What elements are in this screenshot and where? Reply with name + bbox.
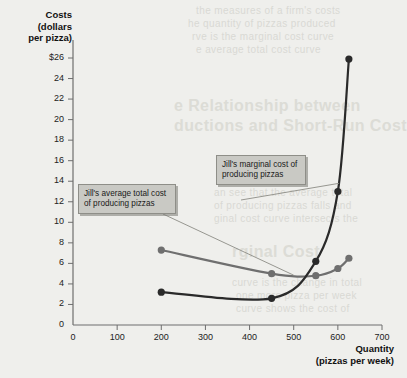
y-tick-label: 0 <box>26 319 64 329</box>
data-point-atc <box>268 270 275 277</box>
y-tick-label: 22 <box>26 93 64 103</box>
y-tick-label: 20 <box>26 114 64 124</box>
y-tick-label: 2 <box>26 298 64 308</box>
data-point-atc <box>312 272 319 279</box>
y-tick-label: 14 <box>26 175 64 185</box>
y-axis-title-sub-1: (dollars <box>8 21 72 33</box>
x-axis-title-main: Quantity <box>262 343 394 355</box>
data-point-mc <box>345 55 352 62</box>
y-axis-title-sub-2: per pizza) <box>8 32 72 44</box>
x-tick-label: 100 <box>102 332 132 342</box>
x-axis-ticks <box>117 325 382 330</box>
x-tick-label: 300 <box>190 332 220 342</box>
x-tick-label: 500 <box>279 332 309 342</box>
y-tick-label: 12 <box>26 196 64 206</box>
y-tick-label: 18 <box>26 134 64 144</box>
x-tick-label: 400 <box>235 332 265 342</box>
y-tick-label: 6 <box>26 257 64 267</box>
x-tick-label: 200 <box>146 332 176 342</box>
y-tick-label: 4 <box>26 278 64 288</box>
y-axis-title: Costs (dollars per pizza) <box>8 9 72 44</box>
x-tick-label: 700 <box>367 332 397 342</box>
annotation-callout-marginal-cost: Jill's marginal cost of producing pizzas <box>216 155 306 185</box>
x-tick-label: 0 <box>58 332 88 342</box>
data-point-mc <box>312 258 319 265</box>
y-tick-label: 8 <box>26 237 64 247</box>
y-tick-label: 10 <box>26 216 64 226</box>
y-axis-ticks <box>68 58 73 304</box>
data-point-mc <box>268 295 275 302</box>
x-tick-label: 600 <box>323 332 353 342</box>
x-axis-title-sub: (pizzas per week) <box>262 355 394 367</box>
data-point-mc <box>334 188 341 195</box>
data-point-mc <box>158 289 165 296</box>
y-tick-label: $26 <box>26 52 64 62</box>
leader-line-average-total-cost <box>163 214 294 275</box>
annotation-callout-average-total-cost: Jill's average total cost of producing p… <box>78 184 176 214</box>
data-point-atc <box>158 246 165 253</box>
y-axis-title-main: Costs <box>8 9 72 21</box>
data-point-atc <box>334 265 341 272</box>
leader-line-marginal-cost <box>241 183 339 200</box>
data-point-atc <box>345 255 352 262</box>
x-axis-title: Quantity (pizzas per week) <box>262 343 394 366</box>
y-tick-label: 16 <box>26 155 64 165</box>
y-tick-label: 24 <box>26 73 64 83</box>
